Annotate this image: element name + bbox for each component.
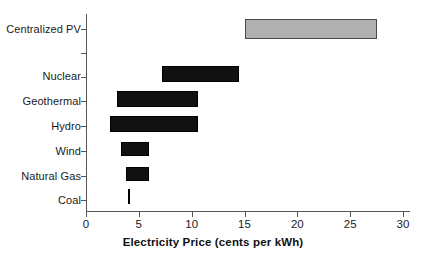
x-axis-tick-label: 0 — [71, 218, 101, 230]
x-axis-tick-label: 25 — [335, 218, 365, 230]
range-bar-wind — [121, 142, 150, 156]
y-axis-tick — [81, 77, 86, 78]
y-axis-label-coal: Coal — [58, 195, 81, 206]
y-axis-tick — [81, 126, 86, 127]
chart-container: Centralized PV Nuclear Geothermal Hydro … — [0, 0, 426, 261]
y-axis-tick — [81, 29, 86, 30]
y-axis-label-geothermal: Geothermal — [23, 96, 81, 107]
y-axis-tick — [81, 53, 86, 54]
y-axis-label-wind: Wind — [56, 146, 81, 157]
y-axis-label-centralized-pv: Centralized PV — [6, 24, 81, 35]
range-bar-centralized-pv — [245, 19, 377, 39]
x-axis-tick-label: 5 — [124, 218, 154, 230]
y-axis-tick — [81, 200, 86, 201]
range-bar-hydro — [110, 116, 198, 132]
x-axis-tick — [139, 212, 140, 217]
range-bar-coal — [128, 189, 130, 204]
x-axis-tick-label: 20 — [282, 218, 312, 230]
x-axis-tick — [350, 212, 351, 217]
range-bar-natural-gas — [126, 167, 149, 181]
y-axis-label-natural-gas: Natural Gas — [21, 171, 81, 182]
x-axis-title: Electricity Price (cents per kWh) — [0, 236, 426, 248]
y-axis-tick — [81, 151, 86, 152]
y-axis-label-hydro: Hydro — [51, 121, 81, 132]
x-axis-tick — [192, 212, 193, 217]
x-axis-tick-label: 30 — [388, 218, 418, 230]
x-axis-tick-label: 10 — [177, 218, 207, 230]
x-axis-tick — [86, 212, 87, 217]
y-axis-line — [86, 14, 87, 212]
range-bar-geothermal — [117, 91, 198, 107]
x-axis-tick-label: 15 — [230, 218, 260, 230]
x-axis-tick — [297, 212, 298, 217]
y-axis-tick — [81, 176, 86, 177]
y-axis-label-nuclear: Nuclear — [42, 71, 81, 82]
x-axis-tick — [245, 212, 246, 217]
x-axis-tick — [403, 212, 404, 217]
range-bar-nuclear — [162, 66, 239, 82]
y-axis-tick — [81, 101, 86, 102]
x-axis-line — [86, 211, 410, 212]
